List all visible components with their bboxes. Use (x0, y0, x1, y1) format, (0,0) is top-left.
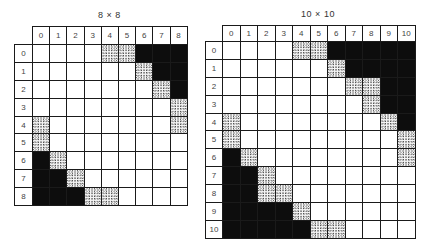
black-cell (345, 42, 363, 60)
empty-cell (328, 113, 346, 131)
black-cell (223, 167, 241, 185)
empty-cell (240, 42, 258, 60)
grid-row: 6 (206, 149, 416, 167)
black-cell (380, 77, 398, 95)
empty-cell (328, 131, 346, 149)
empty-cell (223, 59, 241, 77)
empty-cell (275, 77, 293, 95)
empty-cell (293, 95, 311, 113)
black-cell (328, 42, 346, 60)
black-cell (380, 95, 398, 113)
black-cell (240, 185, 258, 203)
empty-cell (328, 185, 346, 203)
empty-cell (293, 167, 311, 185)
black-cell (223, 185, 241, 203)
empty-cell (345, 203, 363, 221)
empty-cell (363, 149, 381, 167)
empty-cell (275, 59, 293, 77)
empty-cell (310, 203, 328, 221)
empty-cell (258, 42, 276, 60)
empty-cell (310, 59, 328, 77)
row-label: 9 (206, 203, 223, 221)
row-label: 7 (206, 167, 223, 185)
stippled-cell (275, 185, 293, 203)
black-cell (223, 203, 241, 221)
empty-cell (258, 77, 276, 95)
empty-cell (398, 185, 416, 203)
black-cell (275, 220, 293, 238)
empty-cell (293, 77, 311, 95)
empty-cell (258, 113, 276, 131)
empty-cell (258, 59, 276, 77)
empty-cell (240, 95, 258, 113)
empty-cell (275, 42, 293, 60)
black-cell (398, 77, 416, 95)
column-label: 3 (275, 26, 293, 42)
row-label: 8 (206, 185, 223, 203)
empty-cell (240, 59, 258, 77)
column-label: 4 (293, 26, 311, 42)
empty-cell (310, 149, 328, 167)
stippled-cell (223, 131, 241, 149)
black-cell (380, 42, 398, 60)
column-label: 2 (258, 26, 276, 42)
empty-cell (310, 131, 328, 149)
empty-cell (293, 59, 311, 77)
empty-cell (310, 95, 328, 113)
stippled-cell (345, 77, 363, 95)
empty-cell (345, 95, 363, 113)
empty-cell (293, 113, 311, 131)
stippled-cell (380, 113, 398, 131)
empty-cell (293, 149, 311, 167)
stippled-cell (310, 220, 328, 238)
row-label: 0 (206, 42, 223, 60)
empty-cell (275, 113, 293, 131)
black-cell (223, 220, 241, 238)
grid-row: 9 (206, 203, 416, 221)
empty-cell (398, 167, 416, 185)
black-cell (398, 59, 416, 77)
empty-cell (223, 77, 241, 95)
row-label: 5 (206, 131, 223, 149)
grid-row: 5 (206, 131, 416, 149)
empty-cell (258, 149, 276, 167)
empty-cell (275, 95, 293, 113)
stippled-cell (398, 149, 416, 167)
column-label: 0 (223, 26, 241, 42)
empty-cell (345, 167, 363, 185)
black-cell (363, 42, 381, 60)
row-label: 2 (206, 77, 223, 95)
row-label: 6 (206, 149, 223, 167)
row-label: 3 (206, 95, 223, 113)
empty-cell (328, 77, 346, 95)
empty-cell (258, 131, 276, 149)
empty-cell (328, 167, 346, 185)
stippled-cell (258, 185, 276, 203)
stippled-cell (328, 59, 346, 77)
grid-corner (206, 26, 223, 42)
empty-cell (310, 167, 328, 185)
empty-cell (328, 203, 346, 221)
grid-row: 0 (206, 42, 416, 60)
grid-row: 2 (206, 77, 416, 95)
black-cell (240, 203, 258, 221)
column-label: 5 (310, 26, 328, 42)
empty-cell (240, 77, 258, 95)
empty-cell (275, 167, 293, 185)
empty-cell (345, 149, 363, 167)
column-label: 10 (398, 26, 416, 42)
black-cell (345, 59, 363, 77)
empty-cell (345, 113, 363, 131)
empty-cell (380, 203, 398, 221)
empty-cell (363, 131, 381, 149)
column-label: 8 (363, 26, 381, 42)
column-label: 1 (240, 26, 258, 42)
empty-cell (380, 185, 398, 203)
black-cell (258, 203, 276, 221)
column-label: 9 (380, 26, 398, 42)
stippled-cell (363, 77, 381, 95)
empty-cell (345, 185, 363, 203)
grid-10x10-title: 10 × 10 (222, 9, 414, 19)
empty-cell (363, 203, 381, 221)
black-cell (240, 167, 258, 185)
